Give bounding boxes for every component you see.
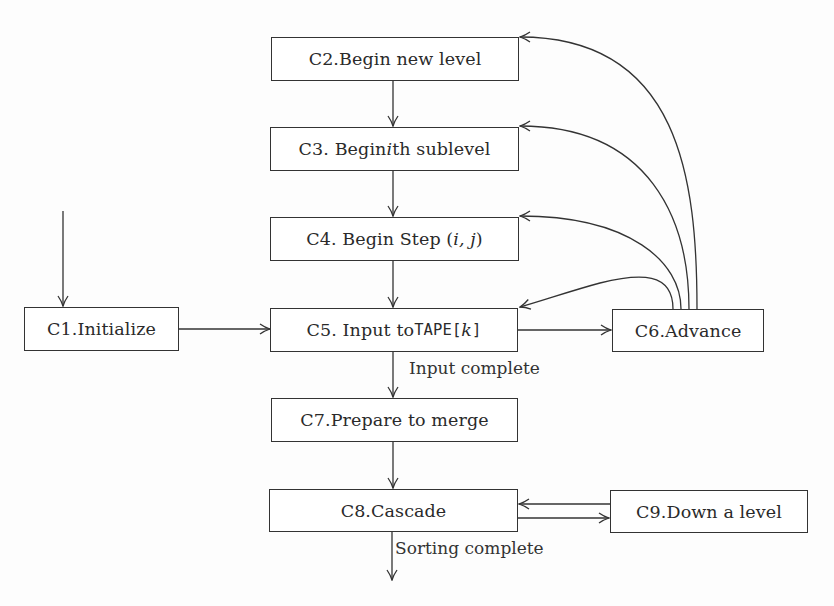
edge-c6-to-c5 <box>520 277 673 309</box>
node-c3-begin-sublevel: C3. Begin ith sublevel <box>270 127 519 171</box>
node-c9-down-a-level: C9. Down a level <box>610 490 808 533</box>
node-c2-label: Begin new level <box>339 49 481 69</box>
node-c5-input-to-tape: C5. Input to TAPE[k] <box>270 308 518 352</box>
node-c9-prefix: C9. <box>636 502 666 522</box>
edge-c6-to-c2 <box>520 37 697 309</box>
node-c1-initialize: C1. Initialize <box>24 307 179 351</box>
node-c7-prefix: C7. <box>300 410 330 430</box>
node-c4-prefix: C4. Begin Step ( <box>306 229 453 249</box>
node-c4-vars: i, j <box>453 229 476 249</box>
node-c6-prefix: C6. <box>635 321 665 341</box>
node-c9-label: Down a level <box>667 502 782 522</box>
node-c6-label: Advance <box>665 321 741 341</box>
edge-label-sorting-complete: Sorting complete <box>395 538 544 558</box>
flowchart-canvas: C1. Initialize C2. Begin new level C3. B… <box>0 0 834 606</box>
node-c7-prepare-to-merge: C7. Prepare to merge <box>271 398 518 442</box>
node-c8-prefix: C8. <box>341 501 371 521</box>
edge-label-input-complete: Input complete <box>409 358 540 378</box>
node-c8-cascade: C8. Cascade <box>269 489 518 532</box>
node-c6-advance: C6. Advance <box>612 309 764 352</box>
node-c5-suffix: ] <box>472 321 481 339</box>
node-c4-suffix: ) <box>476 229 483 249</box>
node-c5-prefix: C5. Input to <box>307 320 415 340</box>
node-c3-suffix: th sublevel <box>392 139 490 159</box>
edge-c6-to-c4 <box>520 216 681 309</box>
node-c1-label: Initialize <box>77 319 156 339</box>
node-c7-label: Prepare to merge <box>331 410 489 430</box>
node-c5-tape: TAPE[ <box>414 321 461 339</box>
node-c1-prefix: C1. <box>47 319 77 339</box>
node-c5-var: k <box>461 320 472 340</box>
node-c3-prefix: C3. Begin <box>299 139 387 159</box>
node-c4-begin-step: C4. Begin Step (i, j) <box>270 217 519 261</box>
node-c2-prefix: C2. <box>309 49 339 69</box>
node-c8-label: Cascade <box>371 501 446 521</box>
node-c2-begin-new-level: C2. Begin new level <box>271 37 519 81</box>
